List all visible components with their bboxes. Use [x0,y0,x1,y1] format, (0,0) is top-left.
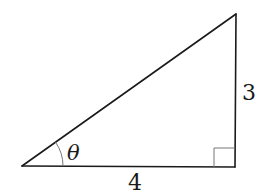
right-angle-marker [214,148,235,167]
opposite-side [235,14,236,167]
right-triangle-diagram: θ 3 4 [0,0,259,196]
hypotenuse [22,14,236,166]
adjacent-side [22,166,235,167]
side-label-adjacent: 4 [128,170,142,195]
angle-label-theta: θ [67,141,80,165]
angle-arc [56,142,64,166]
side-label-opposite: 3 [242,80,256,105]
